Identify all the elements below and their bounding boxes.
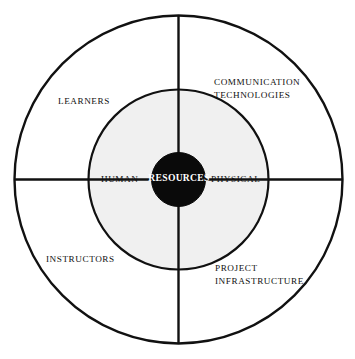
diagram-canvas [0, 0, 355, 359]
resources-diagram: LEARNERS COMMUNICATION TECHNOLOGIES INST… [0, 0, 355, 359]
core-circle [152, 153, 206, 207]
